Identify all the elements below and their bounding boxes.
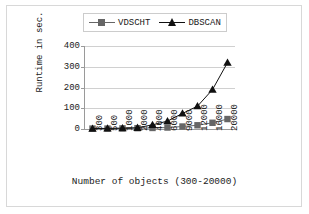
y-tick-mark (81, 129, 84, 130)
x-axis-title: Number of objects (300-20000) (0, 176, 309, 187)
x-tick-label: 2000 (141, 109, 150, 131)
x-tick-label: 9000 (186, 109, 195, 131)
x-tick-label: 500 (111, 115, 120, 131)
chart-legend: VDSCHT DBSCAN (83, 13, 227, 32)
y-tick-label: 200 (54, 84, 80, 93)
y-tick-label: 400 (54, 42, 80, 51)
y-tick-mark (81, 108, 84, 109)
data-point-triangle (223, 58, 231, 65)
x-tick-label: 1000 (126, 109, 135, 131)
square-marker-icon (98, 19, 105, 26)
data-point-triangle (208, 85, 216, 92)
y-tick-label: 0 (54, 125, 80, 134)
x-tick-label: 6000 (171, 109, 180, 131)
legend-item-vdscht: VDSCHT (89, 17, 150, 28)
legend-sample-dbscan (159, 17, 185, 28)
x-tick-label: 20000 (231, 104, 240, 131)
x-tick-label: 300 (96, 115, 105, 131)
legend-item-dbscan: DBSCAN (159, 17, 220, 28)
x-axis-ticks: 3005001000200040006000900012000160002000… (84, 131, 234, 167)
x-tick-label: 4000 (156, 109, 165, 131)
legend-label-vdscht: VDSCHT (118, 18, 150, 28)
legend-sample-vdscht (89, 17, 115, 28)
y-tick-label: 300 (54, 63, 80, 72)
x-tick-label: 16000 (216, 104, 225, 131)
x-tick-label: 12000 (201, 104, 210, 131)
triangle-marker-icon (168, 18, 176, 26)
y-axis-title: Runtime in sec. (35, 2, 45, 102)
y-axis-ticks: 0100200300400 (52, 46, 80, 129)
chart-figure: VDSCHT DBSCAN Runtime in sec. 0100200300… (0, 0, 309, 214)
legend-label-dbscan: DBSCAN (188, 18, 220, 28)
y-tick-mark (81, 67, 84, 68)
y-tick-mark (81, 46, 84, 47)
y-tick-mark (81, 88, 84, 89)
y-tick-label: 100 (54, 104, 80, 113)
